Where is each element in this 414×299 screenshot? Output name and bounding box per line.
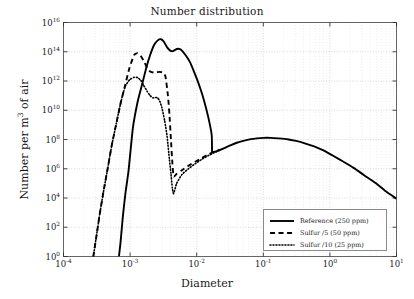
chart-canvas — [0, 0, 414, 299]
y-axis-label-prefix: Number per m — [18, 117, 31, 199]
y-tick-label-0: 100 — [46, 252, 61, 262]
legend-label: Sulfur /10 (25 ppm) — [300, 241, 364, 249]
y-axis-label: Number per m3 of air — [18, 30, 31, 250]
legend-label: Reference (250 ppm) — [300, 217, 369, 225]
y-tick-label-7: 1014 — [42, 47, 60, 57]
y-tick-label-6: 1012 — [42, 76, 60, 86]
y-tick-label-8: 1016 — [42, 18, 60, 28]
x-tick-label-2: 10-2 — [188, 259, 204, 269]
y-tick-label-3: 106 — [46, 164, 61, 174]
y-tick-label-2: 104 — [46, 193, 61, 203]
legend-line-sample-icon — [269, 239, 295, 251]
chart-figure: Number distribution Diameter Number per … — [0, 0, 414, 299]
y-tick-label-4: 108 — [46, 135, 61, 145]
x-tick-label-5: 101 — [389, 259, 404, 269]
series-line-2 — [93, 77, 219, 256]
y-tick-label-5: 1010 — [42, 105, 60, 115]
series-line-1 — [93, 53, 219, 256]
legend[interactable]: Reference (250 ppm)Sulfur /5 (50 ppm)Sul… — [263, 209, 387, 251]
y-tick-label-1: 102 — [46, 222, 61, 232]
y-axis-label-exponent: 3 — [16, 113, 25, 118]
x-tick-label-3: 10-1 — [255, 259, 271, 269]
legend-label: Sulfur /5 (50 ppm) — [300, 229, 360, 237]
legend-line-sample-icon — [269, 227, 295, 239]
x-tick-label-4: 100 — [323, 259, 338, 269]
legend-entry-2[interactable]: Sulfur /10 (25 ppm) — [264, 238, 388, 251]
y-axis-label-suffix: of air — [18, 80, 31, 113]
x-tick-label-1: 10-3 — [122, 259, 138, 269]
chart-title: Number distribution — [0, 5, 414, 17]
legend-line-sample-icon — [269, 215, 295, 227]
x-axis-label: Diameter — [0, 277, 414, 290]
